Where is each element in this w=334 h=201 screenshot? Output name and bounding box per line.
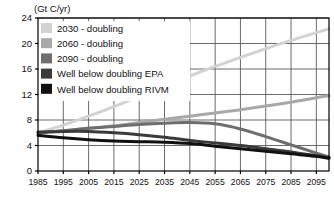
- y-tick-label: 4: [27, 140, 32, 151]
- chart-container: 0481216202419851995200520152025203520452…: [0, 0, 334, 201]
- x-tick-label: 2095: [307, 177, 326, 187]
- legend-swatch-2: [41, 53, 52, 63]
- x-tick-label: 2025: [130, 177, 149, 187]
- x-tick-label: 2015: [104, 177, 123, 187]
- legend-label-1: 2060 - doubling: [57, 38, 123, 49]
- y-tick-label: 8: [27, 114, 32, 125]
- legend-label-0: 2030 - doubling: [57, 23, 123, 34]
- legend-swatch-4: [41, 84, 52, 94]
- x-tick-label: 2075: [256, 177, 275, 187]
- legend-label-4: Well below doubling RIVM: [57, 84, 169, 95]
- x-tick-label: 1985: [28, 177, 47, 187]
- y-tick-label: 24: [21, 12, 32, 23]
- x-tick-label: 2045: [180, 177, 199, 187]
- legend-swatch-0: [41, 23, 52, 33]
- y-axis-unit-label: (Gt C/yr): [34, 3, 70, 14]
- y-tick-label: 16: [21, 63, 32, 74]
- x-tick-label: 2035: [155, 177, 174, 187]
- emissions-line-chart: 0481216202419851995200520152025203520452…: [0, 0, 334, 201]
- legend-label-2: 2090 - doubling: [57, 53, 123, 64]
- x-tick-label: 2055: [206, 177, 225, 187]
- y-tick-label: 12: [21, 89, 32, 100]
- x-tick-label: 2005: [79, 177, 98, 187]
- legend-swatch-1: [41, 38, 52, 48]
- x-tick-label: 2085: [281, 177, 300, 187]
- y-tick-label: 20: [21, 38, 32, 49]
- x-tick-label: 2065: [231, 177, 250, 187]
- y-tick-label: 0: [27, 165, 32, 176]
- legend-swatch-3: [41, 69, 52, 79]
- x-tick-label: 1995: [54, 177, 73, 187]
- legend-label-3: Well below doubling EPA: [57, 68, 164, 79]
